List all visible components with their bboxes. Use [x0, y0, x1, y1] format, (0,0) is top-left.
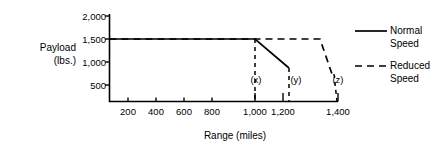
x-axis-ticks — [128, 93, 338, 102]
drop-line-z — [334, 74, 337, 102]
payload-range-chart: Payload (lbs.) 2,000 1,500 1,000 500 200… — [0, 0, 443, 160]
plot-area — [0, 0, 443, 160]
axis-spines — [110, 14, 339, 102]
series-normal-speed — [110, 39, 290, 68]
series-reduced-speed — [110, 39, 333, 74]
